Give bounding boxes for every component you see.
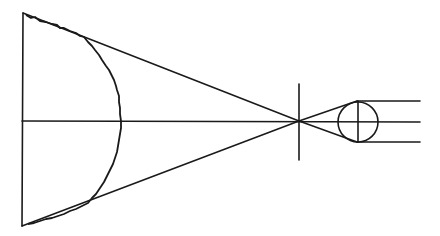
object-plane-line — [22, 13, 23, 226]
lower-converging-ray — [22, 121, 299, 226]
optical-diagram — [0, 0, 440, 236]
optical-axis — [22, 121, 420, 122]
